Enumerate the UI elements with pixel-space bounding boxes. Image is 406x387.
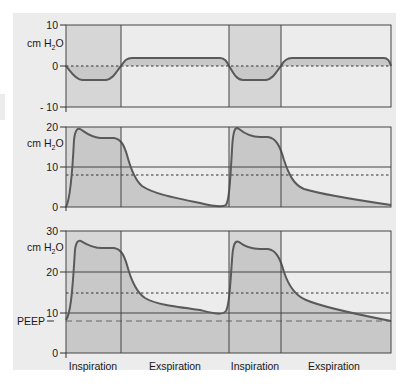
phase-label-inspiration-1: Inspiration [69,360,118,372]
svg-text:30: 30 [46,225,58,237]
svg-text:10: 10 [46,161,58,173]
phase-label-inspiration-2: Inspiration [231,360,280,372]
svg-text:0: 0 [52,347,58,359]
unit-label-3: cm H2O [27,241,64,255]
svg-text:0: 0 [52,60,58,72]
ventilation-pressure-chart: 10 0 - 10 cm H2O 20 10 0 cm H2O [0,0,406,387]
svg-text:0: 0 [52,201,58,213]
panel-2-airway-pressure: 20 10 0 cm H2O [27,121,391,213]
phase-labels: Inspiration Exspiration Inspiration Exsp… [69,360,360,372]
svg-text:20: 20 [46,266,58,278]
svg-text:- 10: - 10 [40,101,58,113]
unit-label-2: cm H2O [27,137,64,151]
svg-text:10: 10 [46,307,58,319]
svg-text:10: 10 [46,19,58,31]
peep-label: PEEP [17,315,45,327]
svg-text:20: 20 [46,121,58,133]
phase-label-expiration-2: Exspiration [308,360,360,372]
unit-label-1: cm H2O [27,37,64,51]
phase-label-expiration-1: Exspiration [149,360,201,372]
